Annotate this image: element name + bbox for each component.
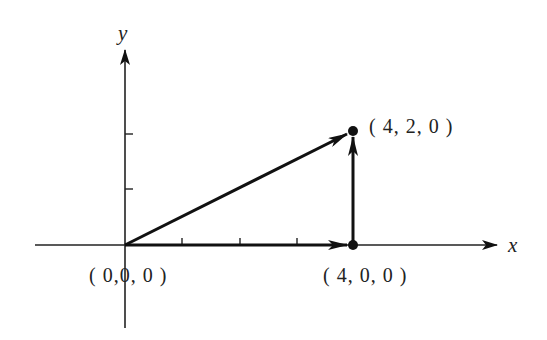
point-420-label: ( 4, 2, 0 ) <box>369 115 453 138</box>
vector-origin-to-420 <box>125 134 347 245</box>
vectors <box>125 134 353 245</box>
point-400-label: ( 4, 0, 0 ) <box>323 264 407 287</box>
point-400-dot <box>348 240 358 250</box>
y-axis-label: y <box>116 21 128 45</box>
point-420-dot <box>348 126 358 136</box>
vector-diagram: x y ( 0,0, 0 ) ( 4, 0, 0 ) ( 4, 2, 0 ) <box>0 0 547 340</box>
origin-label: ( 0,0, 0 ) <box>89 264 167 287</box>
x-axis-label: x <box>507 233 518 257</box>
point-labels: ( 0,0, 0 ) ( 4, 0, 0 ) ( 4, 2, 0 ) <box>89 115 453 287</box>
